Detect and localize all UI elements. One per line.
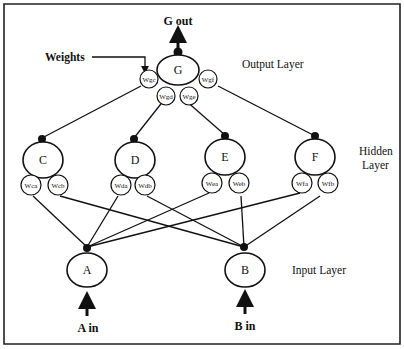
neural-network-diagram: G Wgc Wgd Wge Wgf C D E F Wca Wcb Wda Wd…: [0, 0, 404, 349]
input-layer-label: Input Layer: [292, 264, 346, 277]
weights-callout-arrow: [92, 57, 145, 70]
g-out-label: G out: [163, 14, 192, 28]
output-layer-label: Output Layer: [242, 58, 304, 71]
weights-label: Weights: [45, 51, 85, 64]
node-f-label: F: [312, 150, 319, 164]
node-a-label: A: [83, 263, 92, 277]
weight-wgf-label: Wgf: [202, 76, 215, 84]
weight-wfa-label: Wfa: [296, 180, 309, 188]
node-c-label: C: [39, 153, 47, 167]
b-in-label: B in: [234, 319, 255, 333]
input-dot-b: [240, 243, 248, 251]
weight-wgd-label: Wgd: [159, 93, 173, 101]
weight-wca-label: Wca: [25, 182, 39, 190]
hidden-edges: [33, 193, 320, 247]
weight-wfb-label: Wfb: [322, 180, 335, 188]
input-dot-a: [83, 244, 91, 252]
hidden-layer-label-line2: Layer: [362, 159, 389, 172]
node-b-label: B: [241, 263, 249, 277]
weight-wcb-label: Wcb: [51, 182, 65, 190]
weight-wea-label: Wea: [206, 180, 219, 188]
hidden-layer-label-line1: Hidden: [359, 145, 393, 157]
a-in-label: A in: [77, 321, 98, 335]
node-d-label: D: [131, 153, 140, 167]
weight-web-label: Web: [233, 180, 246, 188]
output-edges: [42, 86, 315, 138]
weight-wda-label: Wda: [114, 182, 128, 190]
node-e-label: E: [221, 150, 228, 164]
node-g-label: G: [174, 63, 183, 77]
weight-wge-label: Wge: [182, 93, 195, 101]
weight-wgc-label: Wgc: [142, 76, 155, 84]
weight-wdb-label: Wdb: [138, 182, 152, 190]
